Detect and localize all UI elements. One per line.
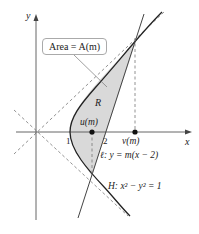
region-label: R: [95, 98, 101, 108]
tick-1-label: 1: [66, 137, 71, 146]
x-axis-arrow: [185, 130, 192, 135]
tick-2-label: 2: [103, 137, 108, 146]
area-label-box: Area = A(m): [42, 38, 107, 55]
point-v-label: v(m): [122, 137, 139, 147]
diagram-canvas: [0, 0, 199, 234]
point-u-label: u(m): [80, 118, 98, 128]
point-v: [132, 129, 137, 134]
line-l-label: ℓ: y = m(x − 2): [100, 151, 158, 161]
point-u: [89, 129, 94, 134]
x-axis-label: x: [185, 137, 189, 147]
hyperbola-label: H: x² − y² = 1: [108, 182, 162, 192]
y-axis-arrow: [34, 14, 39, 21]
y-axis-label: y: [26, 11, 30, 21]
